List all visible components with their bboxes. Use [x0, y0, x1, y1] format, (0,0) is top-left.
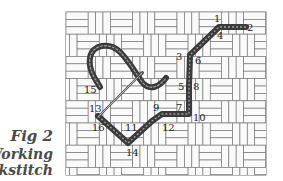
canvas-weave-cell: [140, 101, 147, 123]
canvas-weave-cell: [203, 167, 210, 181]
basketweave-pattern: [55, 12, 283, 181]
canvas-weave-cell: [66, 19, 88, 26]
canvas-weave-cell: [55, 123, 62, 145]
canvas-weave-cell: [66, 71, 88, 78]
canvas-weave-cell: [266, 101, 273, 123]
canvas-weave-cell: [177, 12, 184, 34]
canvas-weave-cell: [229, 12, 236, 34]
canvas-weave-cell: [273, 145, 280, 167]
canvas-weave-cell: [155, 27, 177, 34]
canvas-weave-cell: [66, 56, 88, 63]
canvas-weave-cell: [210, 42, 232, 49]
canvas-weave-cell: [255, 34, 277, 41]
stitch-point-label: 1: [214, 13, 220, 24]
stitch-point-label: 10: [193, 112, 206, 123]
canvas-weave-cell: [236, 12, 243, 34]
canvas-weave-cell: [277, 79, 283, 101]
canvas-weave-cell: [155, 19, 177, 26]
canvas-weave-cell: [192, 145, 199, 167]
canvas-weave-cell: [166, 93, 188, 100]
canvas-weave-cell: [255, 49, 277, 56]
canvas-weave-cell: [70, 79, 77, 101]
canvas-weave-cell: [244, 64, 266, 71]
canvas-weave-cell: [244, 56, 266, 63]
canvas-weave-cell: [159, 34, 166, 56]
canvas-weave-cell: [203, 79, 210, 101]
canvas-weave-cell: [151, 123, 158, 145]
canvas-weave-cell: [273, 12, 280, 34]
canvas-weave-cell: [281, 56, 283, 78]
canvas-weave-cell: [166, 42, 188, 49]
canvas-weave-cell: [103, 12, 110, 34]
canvas-weave-cell: [166, 79, 188, 86]
canvas-weave-cell: [103, 145, 110, 167]
canvas-weave-cell: [110, 12, 132, 19]
canvas-weave-cell: [147, 145, 154, 167]
canvas-weave-cell: [184, 145, 191, 167]
canvas-weave-cell: [144, 34, 151, 56]
canvas-weave-cell: [199, 71, 221, 78]
canvas-weave-cell: [236, 101, 243, 123]
canvas-weave-cell: [255, 130, 277, 137]
canvas-weave-cell: [177, 145, 184, 167]
canvas-weave-cell: [247, 34, 254, 56]
canvas-weave-cell: [155, 145, 177, 152]
canvas-weave-cell: [281, 145, 283, 167]
canvas-weave-cell: [62, 34, 69, 56]
canvas-weave-cell: [210, 79, 232, 86]
canvas-weave-cell: [188, 167, 195, 181]
canvas-weave-cell: [147, 12, 154, 34]
canvas-weave-cell: [77, 138, 99, 145]
canvas-weave-cell: [210, 49, 232, 56]
stitch-point-label: 4: [217, 30, 223, 41]
canvas-weave-cell: [77, 167, 99, 174]
stitch-point-label: 2: [247, 22, 253, 33]
canvas-weave-cell: [107, 167, 114, 181]
canvas-weave-cell: [244, 12, 266, 19]
canvas-weave-cell: [236, 145, 243, 167]
canvas-weave-cell: [255, 175, 277, 181]
canvas-weave-cell: [196, 167, 203, 181]
canvas-weave-cell: [221, 101, 228, 123]
figure-caption-title: Fig 2: [11, 128, 54, 144]
canvas-weave-cell: [210, 175, 232, 181]
canvas-weave-cell: [247, 79, 254, 101]
canvas-weave-cell: [266, 12, 273, 34]
canvas-weave-cell: [122, 175, 144, 181]
canvas-weave-cell: [210, 93, 232, 100]
canvas-weave-cell: [151, 34, 158, 56]
canvas-weave-cell: [255, 79, 277, 86]
canvas-weave-cell: [110, 160, 132, 167]
canvas-weave-cell: [144, 167, 151, 181]
canvas-weave-cell: [266, 145, 273, 167]
canvas-weave-cell: [221, 145, 228, 167]
canvas-weave-cell: [66, 116, 88, 123]
canvas-weave-cell: [240, 79, 247, 101]
canvas-weave-cell: [240, 167, 247, 181]
canvas-weave-cell: [66, 145, 88, 152]
canvas-weave-cell: [221, 56, 228, 78]
canvas-weave-cell: [199, 101, 221, 108]
canvas-weave-cell: [233, 79, 240, 101]
canvas-weave-cell: [244, 145, 266, 152]
stitch-point-label: 14: [126, 147, 139, 158]
canvas-weave-cell: [244, 116, 266, 123]
canvas-weave-cell: [88, 12, 95, 34]
stitch-point-label: 6: [195, 55, 201, 66]
canvas-weave-cell: [255, 86, 277, 93]
canvas-weave-cell: [122, 93, 144, 100]
canvas-weave-cell: [96, 12, 103, 34]
canvas-weave-cell: [244, 108, 266, 115]
canvas-weave-cell: [210, 167, 232, 174]
stitch-point-label: 11: [125, 122, 138, 133]
canvas-weave-cell: [166, 86, 188, 93]
canvas-weave-cell: [255, 93, 277, 100]
canvas-weave-cell: [103, 56, 110, 78]
canvas-weave-cell: [166, 34, 188, 41]
canvas-weave-cell: [266, 56, 273, 78]
canvas-weave-cell: [66, 12, 88, 19]
canvas-weave-cell: [210, 138, 232, 145]
canvas-weave-cell: [199, 56, 221, 63]
canvas-weave-cell: [114, 167, 121, 181]
canvas-weave-cell: [247, 167, 254, 181]
